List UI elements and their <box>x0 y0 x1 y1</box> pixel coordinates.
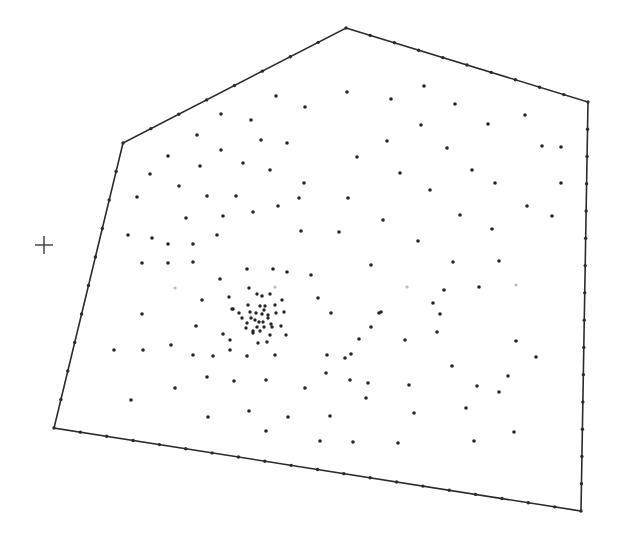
dense-point-cluster <box>227 286 287 344</box>
interior-point <box>195 133 199 137</box>
interior-point <box>148 172 152 176</box>
interior-point <box>438 312 442 316</box>
interior-point <box>177 184 181 188</box>
interior-point <box>328 414 332 418</box>
cluster-point <box>269 322 272 325</box>
cluster-point <box>248 310 251 313</box>
cluster-point <box>257 320 260 323</box>
boundary-point <box>393 41 396 44</box>
boundary-point <box>500 497 503 500</box>
interior-point <box>445 146 449 150</box>
boundary-point <box>584 237 587 240</box>
boundary-point <box>131 439 134 442</box>
interior-point <box>475 384 479 388</box>
boundary-point <box>237 455 240 458</box>
boundary-point <box>448 489 451 492</box>
boundary-point <box>562 93 565 96</box>
boundary-point <box>263 460 266 463</box>
interior-point <box>191 242 195 246</box>
cluster-point <box>251 331 254 334</box>
boundary-point <box>73 341 76 344</box>
polygon-boundary <box>54 28 588 511</box>
interior-point <box>442 288 446 292</box>
interior-point <box>514 339 518 343</box>
interior-point <box>135 195 139 199</box>
boundary-point <box>158 443 161 446</box>
boundary-point <box>582 373 585 376</box>
interior-point <box>247 409 251 413</box>
interior-point <box>140 312 144 316</box>
interior-point <box>381 218 385 222</box>
cluster-point <box>254 311 257 314</box>
interior-point <box>343 356 347 360</box>
boundary-point <box>289 55 292 58</box>
interior-point <box>140 261 144 265</box>
boundary-point <box>210 451 213 454</box>
interior-point <box>458 213 462 217</box>
boundary-point <box>87 284 90 287</box>
interior-point <box>200 298 204 302</box>
boundary-point <box>94 255 97 258</box>
boundary-point <box>527 501 530 504</box>
faint-points <box>173 283 517 289</box>
boundary-point <box>585 155 588 158</box>
cluster-point <box>266 313 269 316</box>
cluster-point <box>268 292 271 295</box>
interior-point <box>403 338 407 342</box>
cluster-point <box>249 316 252 319</box>
interior-point <box>245 267 249 271</box>
boundary-point <box>441 56 444 59</box>
boundary-point <box>177 113 180 116</box>
interior-point <box>351 440 355 444</box>
interior-point <box>540 144 544 148</box>
interior-point <box>245 354 249 358</box>
interior-point <box>198 164 202 168</box>
interior-point <box>302 181 306 185</box>
cluster-point <box>265 340 268 343</box>
cluster-point <box>270 325 273 328</box>
interior-point <box>166 154 170 158</box>
faint-point <box>514 283 517 286</box>
cluster-point <box>253 318 256 321</box>
interior-point <box>215 233 219 237</box>
interior-point <box>232 379 236 383</box>
interior-point <box>219 148 223 152</box>
interior-point <box>472 439 476 443</box>
cluster-point <box>284 333 287 336</box>
boundary-point <box>584 264 587 267</box>
interior-point <box>422 84 426 88</box>
interior-point <box>435 330 439 334</box>
boundary-point <box>490 71 493 74</box>
boundary-point <box>584 209 587 212</box>
cluster-point <box>227 295 230 298</box>
interior-point <box>523 113 527 117</box>
interior-points <box>112 84 563 445</box>
diagram-canvas <box>0 0 621 553</box>
interior-point <box>303 386 307 390</box>
interior-point <box>464 406 468 410</box>
interior-point <box>345 90 349 94</box>
interior-point <box>205 194 209 198</box>
interior-point <box>234 194 238 198</box>
cluster-point <box>255 325 258 328</box>
interior-point <box>297 196 301 200</box>
cluster-point <box>282 310 285 313</box>
interior-point <box>325 353 329 357</box>
interior-point <box>355 155 359 159</box>
interior-point <box>285 270 289 274</box>
interior-point <box>205 375 209 379</box>
interior-point <box>126 233 130 237</box>
cluster-point <box>262 308 265 311</box>
boundary-point <box>580 455 583 458</box>
boundary-point <box>583 318 586 321</box>
crosshair-marker-icon <box>35 236 53 254</box>
cluster-point <box>258 304 261 307</box>
interior-point <box>385 139 389 143</box>
cluster-point <box>246 303 249 306</box>
interior-point <box>173 386 177 390</box>
cluster-point <box>244 326 247 329</box>
interior-point <box>271 267 275 271</box>
interior-point <box>346 196 350 200</box>
boundary-point <box>581 400 584 403</box>
boundary-point <box>586 128 589 131</box>
